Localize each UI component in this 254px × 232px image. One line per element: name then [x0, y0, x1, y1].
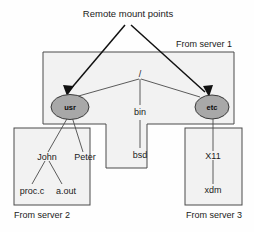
- filesystem-mount-diagram: Remote mount points From server 1 From s…: [0, 0, 254, 232]
- node-label-x11: X11: [205, 151, 220, 161]
- node-label-procc: proc.c: [20, 186, 45, 196]
- node-label-usr: usr: [64, 103, 76, 112]
- node-label-peter: Peter: [74, 152, 96, 162]
- diagram-canvas: Remote mount points From server 1 From s…: [0, 0, 254, 232]
- label-from-server-3: From server 3: [186, 210, 242, 220]
- node-label-bsd: bsd: [133, 150, 148, 160]
- node-label-etc: etc: [207, 103, 218, 112]
- annotation-remote-mount-points: Remote mount points: [83, 8, 174, 19]
- label-from-server-2: From server 2: [14, 210, 70, 220]
- node-label-bin: bin: [134, 107, 146, 117]
- label-from-server-1: From server 1: [176, 39, 232, 49]
- node-label-aout: a.out: [56, 186, 77, 196]
- node-label-xdm: xdm: [204, 185, 221, 195]
- node-label-john: John: [37, 152, 57, 162]
